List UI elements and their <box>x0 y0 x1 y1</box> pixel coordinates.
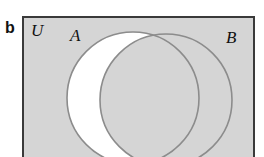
venn-diagram-figure: b U A B <box>0 0 264 157</box>
universal-set-label: U <box>31 21 45 40</box>
set-label-b: B <box>226 28 237 47</box>
venn-diagram-canvas: U A B <box>0 0 264 157</box>
set-label-a: A <box>69 26 81 45</box>
shaded-region-a-minus-b <box>23 17 254 157</box>
